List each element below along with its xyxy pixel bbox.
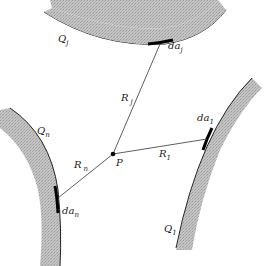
label-r-j: Rj	[120, 92, 134, 106]
surface-q-j	[44, 0, 226, 44]
point-p	[111, 152, 116, 157]
label-p: P	[115, 157, 123, 168]
surface-q-1-band	[176, 78, 262, 250]
surface-q-n	[0, 108, 61, 266]
label-da-j: daj	[168, 40, 183, 54]
radius-r-n	[58, 154, 113, 198]
label-r-1: R1	[158, 148, 171, 162]
label-q-j: Qj	[58, 33, 69, 47]
label-q-1: Q1	[164, 223, 177, 237]
surface-q-1	[176, 78, 262, 250]
label-da-1: da1	[197, 112, 214, 126]
label-r-n: Rn	[73, 159, 89, 173]
label-da-n: dan	[62, 205, 79, 219]
diagram-canvas: Qj daj Rj da1 R1 Q1 Qn Rn dan P	[0, 0, 270, 266]
surface-q-n-band	[0, 108, 61, 266]
